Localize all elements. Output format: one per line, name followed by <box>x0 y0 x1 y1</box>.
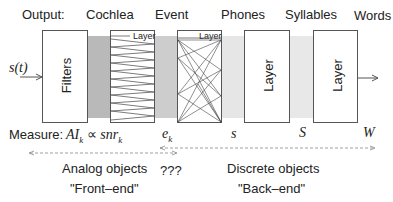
input-signal-label: s(t) <box>9 60 28 76</box>
measure-S: S <box>299 125 306 141</box>
event-network-icon <box>178 40 221 122</box>
output-arrow-icon <box>358 75 378 81</box>
discrete-objects-label: Discrete objects <box>227 161 319 176</box>
cochlea-filterbank-icon <box>111 36 154 120</box>
analog-objects-label: Analog objects <box>62 161 147 176</box>
measure-ai-snr: AIk ∝ snrk <box>66 126 122 145</box>
measure-W: W <box>363 125 375 141</box>
measure-ai: AI <box>66 127 79 142</box>
unknown-label: ??? <box>160 163 182 178</box>
measure-s: s <box>231 126 236 142</box>
analog-range-arrow-icon <box>29 151 177 155</box>
measure-e-sub: k <box>168 134 172 144</box>
measure-ai-sub: k <box>79 135 83 145</box>
diagram-lines <box>0 0 393 202</box>
back-end-label: "Back–end" <box>238 181 305 196</box>
discrete-range-arrow-icon <box>160 146 375 150</box>
measure-row-label: Measure: <box>9 127 63 142</box>
measure-propto: ∝ <box>87 127 97 142</box>
front-end-label: "Front–end" <box>70 181 139 196</box>
measure-snr: snr <box>100 127 118 142</box>
measure-e: ek <box>162 126 172 144</box>
measure-snr-sub: k <box>118 135 122 145</box>
